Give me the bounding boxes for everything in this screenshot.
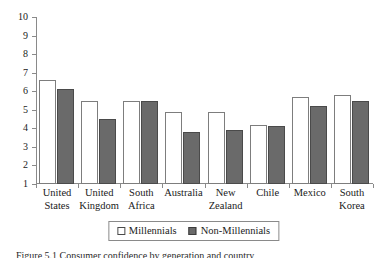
- filled-square-swatch-icon: [189, 227, 197, 235]
- bar-millennials: [165, 112, 182, 184]
- bar-group: United States: [36, 17, 78, 184]
- bar-group: South Korea: [331, 17, 373, 184]
- bar-non-millennials: [183, 132, 200, 184]
- y-axis-tick-label: 5: [23, 103, 28, 116]
- y-axis-tick-label: 8: [23, 47, 28, 60]
- bar-millennials: [81, 101, 98, 185]
- bar-group: United Kingdom: [78, 17, 120, 184]
- bar-group: New Zealand: [205, 17, 247, 184]
- y-axis-tick-label: 10: [18, 10, 28, 23]
- bar-non-millennials: [310, 106, 327, 184]
- bar-non-millennials: [226, 130, 243, 184]
- y-axis-tick-label: 6: [23, 84, 28, 97]
- plot-area: 12345678910 United StatesUnited KingdomS…: [36, 17, 373, 184]
- bar-non-millennials: [352, 101, 369, 185]
- bar-non-millennials: [57, 89, 74, 184]
- bar-non-millennials: [99, 119, 116, 184]
- bar-group: Chile: [247, 17, 289, 184]
- bar-non-millennials: [268, 126, 285, 184]
- y-axis-tick-label: 9: [23, 29, 28, 42]
- bar-non-millennials: [141, 101, 158, 185]
- legend-label-millennials: Millennials: [129, 224, 177, 237]
- legend-label-non-millennials: Non-Millennials: [201, 224, 270, 237]
- bar-millennials: [123, 101, 140, 185]
- bar-group: Mexico: [289, 17, 331, 184]
- legend-entry-non-millennials: Non-Millennials: [189, 224, 270, 237]
- legend-entry-millennials: Millennials: [117, 224, 177, 237]
- bar-group: South Africa: [120, 17, 162, 184]
- y-axis-tick-label: 2: [23, 158, 28, 171]
- y-axis-tick-label: 4: [23, 121, 28, 134]
- open-square-swatch-icon: [117, 227, 125, 235]
- y-axis-tick-label: 7: [23, 66, 28, 79]
- y-axis-tick-label: 3: [23, 140, 28, 153]
- bar-chart-figure: 12345678910 United StatesUnited KingdomS…: [0, 0, 387, 258]
- bar-millennials: [250, 125, 267, 184]
- x-axis-category-label: South Korea: [321, 187, 383, 212]
- bar-millennials: [334, 95, 351, 184]
- bar-group: Australia: [162, 17, 204, 184]
- bar-millennials: [292, 97, 309, 184]
- figure-caption: Figure 5.1 Consumer confidence by genera…: [16, 250, 377, 258]
- bar-millennials: [39, 80, 56, 184]
- chart-legend: Millennials Non-Millennials: [108, 221, 279, 241]
- bar-millennials: [208, 112, 225, 184]
